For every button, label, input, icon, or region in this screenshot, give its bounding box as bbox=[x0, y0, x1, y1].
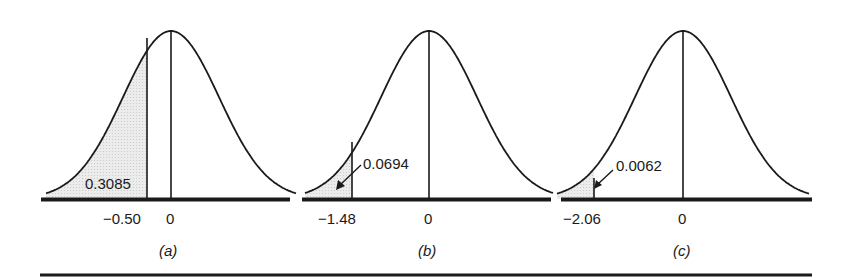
area-label-a: 0.3085 bbox=[85, 175, 131, 192]
shaded-area-b bbox=[305, 153, 352, 199]
panel-c: 0.0062 −2.06 0 (c) bbox=[557, 31, 812, 259]
shaded-area-c bbox=[557, 169, 594, 199]
normal-curves-figure: 0.3085 −0.50 0 (a) 0.0694 −1.48 0 (b) 0.… bbox=[0, 0, 848, 280]
area-label-c: 0.0062 bbox=[616, 157, 662, 174]
caption-a: (a) bbox=[159, 242, 177, 259]
panel-b: 0.0694 −1.48 0 (b) bbox=[302, 31, 553, 259]
zero-tick-label-c: 0 bbox=[678, 210, 686, 227]
caption-b: (b) bbox=[418, 242, 436, 259]
panel-a: 0.3085 −0.50 0 (a) bbox=[41, 31, 296, 259]
zero-tick-label-b: 0 bbox=[424, 210, 432, 227]
area-label-b: 0.0694 bbox=[363, 155, 409, 172]
zero-tick-label-a: 0 bbox=[166, 210, 174, 227]
cut-tick-label-c: −2.06 bbox=[563, 210, 601, 227]
cut-tick-label-a: −0.50 bbox=[103, 210, 141, 227]
cut-tick-label-b: −1.48 bbox=[318, 210, 356, 227]
annotation-arrow-c bbox=[598, 170, 613, 184]
caption-c: (c) bbox=[673, 242, 691, 259]
